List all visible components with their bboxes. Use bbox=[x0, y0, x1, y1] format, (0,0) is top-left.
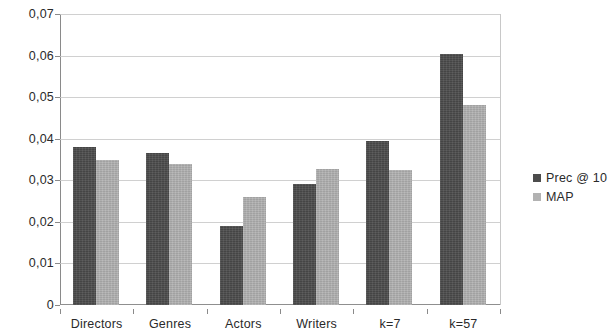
plot-area bbox=[60, 14, 500, 305]
y-tick-label: 0,07 bbox=[6, 7, 54, 21]
y-tick-label: 0,06 bbox=[6, 49, 54, 63]
bar-prec-at-10 bbox=[220, 226, 243, 305]
y-tick-label: 0,03 bbox=[6, 173, 54, 187]
y-tick-label: 0,01 bbox=[6, 256, 54, 270]
bar-map bbox=[316, 169, 339, 305]
bar-prec-at-10 bbox=[146, 153, 169, 305]
chart-legend: Prec @ 10 MAP bbox=[533, 168, 611, 206]
bar-chart-figure: 0,07 0,06 0,05 0,04 0,03 0,02 0,01 0 bbox=[0, 0, 613, 336]
legend-swatch-icon bbox=[533, 174, 541, 182]
bar-prec-at-10 bbox=[366, 141, 389, 305]
legend-swatch-icon bbox=[533, 193, 541, 201]
y-tick-label: 0 bbox=[6, 298, 54, 312]
bar-prec-at-10 bbox=[73, 147, 96, 305]
x-tick-mark bbox=[500, 309, 501, 314]
bar-map bbox=[96, 160, 119, 306]
x-axis: Directors Genres Actors Writers k=7 k=57 bbox=[60, 309, 500, 335]
bar-group bbox=[60, 14, 133, 305]
bar-map bbox=[243, 197, 266, 305]
x-tick-label-genres: Genres bbox=[149, 317, 191, 331]
y-tick-mark bbox=[55, 305, 60, 306]
y-tick-label: 0,05 bbox=[6, 90, 54, 104]
y-axis: 0,07 0,06 0,05 0,04 0,03 0,02 0,01 0 bbox=[0, 0, 54, 336]
bar-map bbox=[169, 164, 192, 305]
x-tick-label-k7: k=7 bbox=[379, 317, 400, 331]
bar-group bbox=[133, 14, 206, 305]
x-tick-label-k57: k=57 bbox=[449, 317, 477, 331]
legend-label: Prec @ 10 bbox=[546, 171, 607, 185]
bar-group bbox=[427, 14, 500, 305]
bar-map bbox=[389, 170, 412, 305]
bar-group bbox=[280, 14, 353, 305]
legend-item-map: MAP bbox=[533, 187, 611, 206]
x-tick-label-writers: Writers bbox=[296, 317, 337, 331]
x-tick-mark bbox=[280, 309, 281, 314]
x-tick-label-directors: Directors bbox=[71, 317, 123, 331]
x-tick-mark bbox=[427, 309, 428, 314]
bar-group bbox=[207, 14, 280, 305]
y-tick-label: 0,04 bbox=[6, 132, 54, 146]
x-tick-mark bbox=[133, 309, 134, 314]
bar-prec-at-10 bbox=[293, 184, 316, 305]
y-tick-label: 0,02 bbox=[6, 215, 54, 229]
bar-map bbox=[463, 105, 486, 305]
legend-label: MAP bbox=[546, 190, 574, 204]
plot-right-border bbox=[500, 14, 501, 305]
legend-item-prec-at-10: Prec @ 10 bbox=[533, 168, 611, 187]
x-tick-label-actors: Actors bbox=[225, 317, 262, 331]
x-tick-mark bbox=[207, 309, 208, 314]
bar-group bbox=[353, 14, 426, 305]
x-tick-mark bbox=[353, 309, 354, 314]
bar-prec-at-10 bbox=[440, 54, 463, 305]
x-tick-mark bbox=[60, 309, 61, 314]
